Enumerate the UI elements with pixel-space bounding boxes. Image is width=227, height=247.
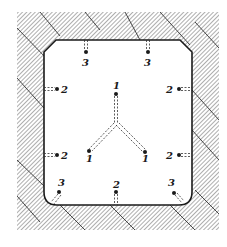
label-center-right: 1 [142, 153, 149, 164]
hole-bottom-center [114, 190, 118, 194]
label-top-right: 3 [144, 57, 151, 68]
hole-center-top [114, 92, 118, 96]
hole-right-lower [177, 153, 181, 157]
blast-hole-diagram: 3 3 2 2 2 2 1 1 1 2 3 3 [0, 0, 227, 247]
diagram-canvas: 3 3 2 2 2 2 1 1 1 2 3 3 [0, 0, 227, 247]
label-left-upper: 2 [60, 84, 68, 95]
hole-bottom-left [57, 190, 61, 194]
label-left-lower: 2 [60, 150, 68, 161]
label-bottom-center: 2 [112, 179, 120, 190]
label-right-upper: 2 [165, 84, 173, 95]
label-center-top: 1 [113, 80, 120, 91]
hole-bottom-right [172, 191, 176, 195]
label-right-lower: 2 [165, 150, 173, 161]
hole-top-left [84, 50, 88, 54]
rock-mass [17, 12, 219, 230]
label-center-left: 1 [86, 153, 93, 164]
hole-left-lower [55, 153, 59, 157]
hole-left-upper [55, 87, 59, 91]
label-bottom-left: 3 [58, 177, 65, 188]
label-top-left: 3 [82, 57, 89, 68]
label-bottom-right: 3 [168, 177, 175, 188]
hole-right-upper [177, 87, 181, 91]
hole-top-right [146, 50, 150, 54]
